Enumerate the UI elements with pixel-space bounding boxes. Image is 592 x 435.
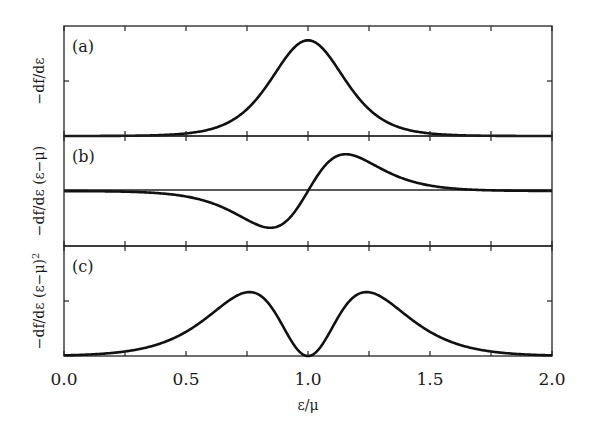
curve-a [64, 40, 552, 136]
panel-a-frame [64, 26, 552, 136]
x-tick-label: 0.0 [50, 369, 77, 389]
ticks-c [64, 246, 552, 356]
ticks-a [64, 26, 552, 136]
x-tick-labels: 0.00.51.01.52.0 [50, 369, 565, 389]
panel-b: (b) −df/dε (ε−μ) [31, 136, 552, 246]
panel-c-frame [64, 246, 552, 356]
panel-c-label: (c) [72, 257, 93, 276]
figure: (a) −df/dε (b) −df/dε (ε−μ) (c) −df/dε (… [0, 0, 592, 435]
x-tick-label: 1.5 [416, 369, 443, 389]
x-tick-label: 0.5 [172, 369, 199, 389]
x-tick-label: 1.0 [294, 369, 321, 389]
y-axis-label-b: −df/dε (ε−μ) [31, 146, 47, 236]
y-axis-label-c: −df/dε (ε−μ)2 [30, 253, 48, 350]
curve-c [64, 292, 552, 356]
y-axis-label-c-exponent: 2 [30, 253, 41, 259]
panel-a: (a) −df/dε [31, 26, 552, 136]
panel-b-label: (b) [72, 147, 95, 166]
y-axis-label-c-text: −df/dε (ε−μ) [31, 259, 47, 349]
panel-c: (c) −df/dε (ε−μ)2 [30, 246, 553, 356]
curve-b [64, 154, 552, 228]
panel-a-label: (a) [72, 37, 94, 56]
x-tick-label: 2.0 [538, 369, 565, 389]
y-axis-label-a: −df/dε [31, 58, 47, 105]
x-axis-label: ε/μ [297, 397, 318, 413]
